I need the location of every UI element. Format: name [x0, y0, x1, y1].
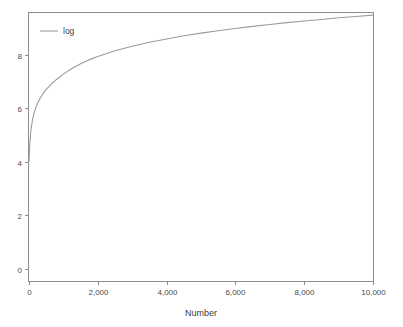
series-group — [29, 15, 373, 162]
x-tick-label: 6,000 — [225, 288, 246, 297]
series-line-0 — [29, 15, 373, 162]
y-tick-label: 0 — [18, 266, 23, 275]
y-tick-label: 6 — [18, 105, 23, 114]
x-axis-tick-labels: 02,0004,0006,0008,00010,000 — [27, 288, 386, 297]
legend-item-label: log — [63, 26, 75, 36]
y-axis-tick-labels: 02468 — [18, 52, 23, 275]
x-axis-title: Number — [185, 308, 217, 318]
chart-container: 02,0004,0006,0008,00010,000 02468 log Nu… — [0, 0, 403, 327]
x-tick-label: 0 — [27, 288, 32, 297]
y-tick-label: 2 — [18, 212, 23, 221]
y-tick-label: 4 — [18, 159, 23, 168]
x-tick-label: 10,000 — [361, 288, 386, 297]
chart-legend[interactable]: log — [40, 26, 75, 36]
x-tick-label: 4,000 — [157, 288, 178, 297]
x-tick-label: 8,000 — [294, 288, 315, 297]
y-tick-label: 8 — [18, 52, 23, 61]
plot-frame — [29, 13, 374, 282]
line-chart: 02,0004,0006,0008,00010,000 02468 log Nu… — [0, 0, 403, 327]
x-tick-label: 2,000 — [88, 288, 109, 297]
